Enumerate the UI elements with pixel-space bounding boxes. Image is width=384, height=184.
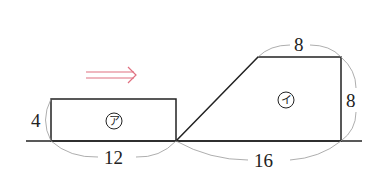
label-trap-height: 8 xyxy=(346,90,356,111)
arrow-right-icon xyxy=(86,67,136,83)
dim-arc-rect-height xyxy=(46,99,52,141)
label-trap-bottom: 16 xyxy=(254,150,273,171)
label-rect-height: 4 xyxy=(31,110,41,131)
label-rect-width: 12 xyxy=(104,147,123,168)
label-trap-top: 8 xyxy=(294,34,304,55)
name-trap: イ xyxy=(281,94,292,107)
diagram: 4 12 16 8 8 ア イ xyxy=(0,0,384,184)
name-rect: ア xyxy=(109,115,120,128)
trapezoid-i xyxy=(176,57,341,141)
